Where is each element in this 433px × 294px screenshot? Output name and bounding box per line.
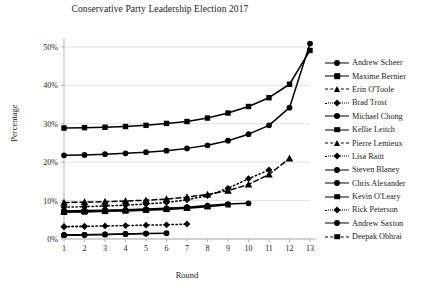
x-tick-label: 4 (117, 244, 135, 253)
legend-item[interactable]: Deepak Obhrai (325, 230, 406, 243)
legend-item[interactable]: Pierre Lemieux (325, 136, 406, 149)
legend-item[interactable]: Kevin O'Leary (325, 190, 406, 203)
legend-marker-square-icon (325, 70, 349, 83)
y-tick-label: 40% (28, 81, 58, 90)
legend-item[interactable]: Maxime Bernier (325, 69, 406, 82)
y-tick-label: 20% (28, 158, 58, 167)
legend-label: Brad Trost (349, 98, 387, 107)
legend-marker-diamond-icon (325, 96, 349, 109)
x-tick-label: 1 (55, 244, 73, 253)
legend-marker-diamond-icon (325, 150, 349, 163)
legend-label: Chris Alexander (349, 179, 405, 188)
legend-marker-square-icon (325, 190, 349, 203)
legend-marker-circle-icon (325, 110, 349, 123)
legend-label: Andrew Saxton (349, 219, 403, 228)
y-tick-label: 50% (28, 43, 58, 52)
legend-label: Deepak Obhrai (349, 232, 402, 241)
legend-marker-circle-icon (325, 163, 349, 176)
legend-item[interactable]: Andrew Saxton (325, 217, 406, 230)
legend-item[interactable]: Brad Trost (325, 96, 406, 109)
legend-marker-circle-icon (325, 177, 349, 190)
legend-label: Rick Peterson (349, 205, 398, 214)
x-tick-label: 6 (158, 244, 176, 253)
legend-marker-circle-icon (325, 56, 349, 69)
legend-label: Kellie Leitch (349, 125, 395, 134)
legend-label: Michael Chong (349, 112, 403, 121)
x-tick-label: 10 (240, 244, 258, 253)
legend-item[interactable]: Steven Blaney (325, 163, 406, 176)
legend-label: Andrew Scheer (349, 58, 403, 67)
legend-label: Steven Blaney (349, 165, 400, 174)
legend-marker-circle-icon (325, 217, 349, 230)
legend-item[interactable]: Erin O'Toole (325, 83, 406, 96)
legend-label: Kevin O'Leary (349, 192, 401, 201)
x-tick-label: 2 (76, 244, 94, 253)
legend-marker-diamond-icon (325, 203, 349, 216)
chart-container: Conservative Party Leadership Election 2… (0, 0, 433, 294)
x-tick-label: 12 (281, 244, 299, 253)
x-tick-label: 11 (260, 244, 278, 253)
legend-label: Pierre Lemieux (349, 139, 403, 148)
legend-label: Maxime Bernier (349, 72, 406, 81)
legend-marker-square-icon (325, 123, 349, 136)
legend-item[interactable]: Andrew Scheer (325, 56, 406, 69)
legend-item[interactable]: Chris Alexander (325, 177, 406, 190)
x-tick-label: 3 (96, 244, 114, 253)
legend-label: Lisa Raitt (349, 152, 384, 161)
x-tick-label: 5 (137, 244, 155, 253)
x-tick-label: 9 (219, 244, 237, 253)
legend-item[interactable]: Rick Peterson (325, 203, 406, 216)
legend-marker-triangle-icon (325, 137, 349, 150)
y-tick-label: 30% (28, 119, 58, 128)
legend-item[interactable]: Lisa Raitt (325, 150, 406, 163)
y-tick-label: 10% (28, 196, 58, 205)
x-tick-label: 7 (178, 244, 196, 253)
x-tick-label: 13 (301, 244, 319, 253)
legend-item[interactable]: Michael Chong (325, 110, 406, 123)
x-tick-label: 8 (199, 244, 217, 253)
legend-item[interactable]: Kellie Leitch (325, 123, 406, 136)
chart-legend: Andrew ScheerMaxime BernierErin O'TooleB… (325, 56, 406, 243)
legend-marker-square-icon (325, 230, 349, 243)
y-tick-label: 0% (28, 235, 58, 244)
legend-label: Erin O'Toole (349, 85, 394, 94)
legend-marker-triangle-icon (325, 83, 349, 96)
